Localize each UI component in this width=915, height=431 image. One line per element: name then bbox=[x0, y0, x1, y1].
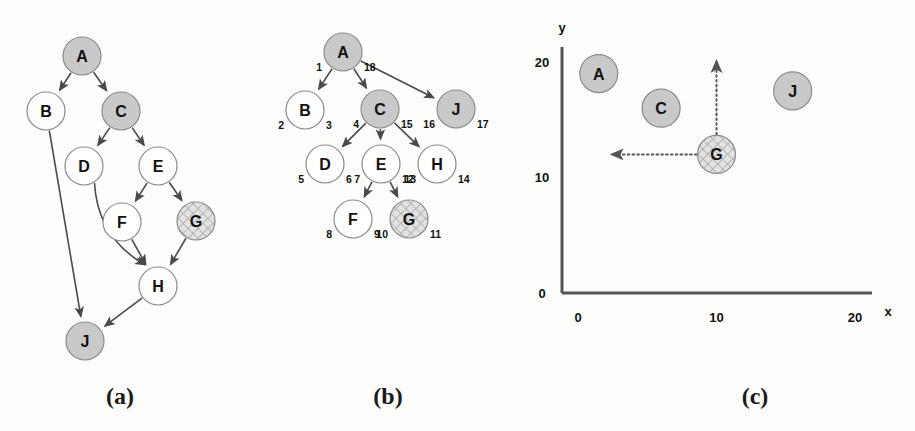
node-discovery-time: 16 bbox=[423, 118, 435, 130]
node-label: H bbox=[152, 278, 164, 295]
node-finish-time: 14 bbox=[458, 173, 470, 185]
y-axis-title: y bbox=[558, 20, 566, 35]
y-tick-label: 0 bbox=[538, 286, 545, 301]
node-label: E bbox=[376, 156, 387, 173]
node-discovery-time: 10 bbox=[376, 228, 388, 240]
node-label: A bbox=[76, 48, 88, 65]
node-finish-time: 11 bbox=[430, 228, 441, 240]
panel-a: ABCDEFGHJ bbox=[27, 37, 215, 360]
panel-b-nodes: A118B23C415J1617D56E712H1314F89G1011 bbox=[278, 33, 489, 240]
node-discovery-time: 8 bbox=[326, 228, 332, 240]
node-label: C bbox=[115, 103, 127, 120]
node-discovery-time: 2 bbox=[278, 119, 284, 131]
node-label: D bbox=[78, 158, 90, 175]
node-label: F bbox=[348, 211, 358, 228]
graph-node-j[interactable]: J bbox=[66, 322, 104, 360]
graph-node-j[interactable]: J1617 bbox=[423, 90, 489, 130]
panel-b: A118B23C415J1617D56E712H1314F89G1011 bbox=[278, 33, 489, 240]
point-label: J bbox=[788, 83, 797, 100]
node-label: F bbox=[117, 214, 127, 231]
node-finish-time: 3 bbox=[326, 119, 332, 131]
scatter-point-j[interactable]: J bbox=[774, 72, 812, 110]
graph-node-b[interactable]: B23 bbox=[278, 91, 332, 131]
node-label: B bbox=[40, 103, 52, 120]
scatter-point-c[interactable]: C bbox=[642, 89, 680, 127]
graph-edge bbox=[60, 73, 71, 90]
graph-edge bbox=[94, 72, 107, 90]
node-discovery-time: 4 bbox=[353, 118, 359, 130]
graph-node-a[interactable]: A118 bbox=[316, 33, 376, 73]
graph-node-a[interactable]: A bbox=[63, 37, 101, 75]
scatter-point-g[interactable]: G bbox=[698, 135, 736, 173]
node-label: J bbox=[81, 333, 90, 350]
node-label: C bbox=[374, 101, 386, 118]
point-label: C bbox=[655, 100, 667, 117]
x-tick-label: 20 bbox=[848, 310, 862, 325]
graph-node-e[interactable]: E bbox=[139, 147, 177, 185]
node-label: G bbox=[190, 213, 202, 230]
figure-root: ABCDEFGHJ A118B23C415J1617D56E712H1314F8… bbox=[0, 0, 915, 431]
graph-edge bbox=[169, 182, 181, 200]
node-finish-time: 15 bbox=[401, 118, 413, 130]
graph-edge bbox=[364, 182, 372, 197]
graph-node-g[interactable]: G bbox=[177, 202, 215, 240]
y-tick-label: 10 bbox=[535, 170, 549, 185]
node-label: J bbox=[452, 101, 461, 118]
graph-node-d[interactable]: D bbox=[65, 147, 103, 185]
graph-edge bbox=[136, 183, 148, 201]
node-label: D bbox=[319, 156, 331, 173]
node-discovery-time: 7 bbox=[354, 173, 360, 185]
panel-c-scatter-plot: yx0102001020 ACGJ bbox=[535, 20, 893, 325]
point-label: A bbox=[593, 66, 605, 83]
graph-edge bbox=[105, 298, 142, 326]
graph-node-c[interactable]: C bbox=[102, 92, 140, 130]
node-finish-time: 17 bbox=[477, 118, 489, 130]
graph-edge bbox=[171, 238, 186, 264]
x-axis-title: x bbox=[884, 304, 892, 319]
graph-node-b[interactable]: B bbox=[27, 92, 65, 130]
node-label: E bbox=[153, 158, 164, 175]
node-label: G bbox=[403, 211, 415, 228]
panel-c-points: ACGJ bbox=[580, 55, 812, 174]
graph-node-f[interactable]: F89 bbox=[326, 200, 380, 240]
node-discovery-time: 13 bbox=[404, 173, 416, 185]
graph-edge bbox=[132, 128, 144, 146]
x-tick-label: 0 bbox=[574, 310, 581, 325]
panel-caption-c: (c) bbox=[742, 383, 769, 410]
graph-node-f[interactable]: F bbox=[103, 203, 141, 241]
point-label: G bbox=[710, 146, 722, 163]
graph-node-g[interactable]: G1011 bbox=[376, 200, 441, 240]
node-label: A bbox=[337, 44, 349, 61]
scatter-point-a[interactable]: A bbox=[580, 55, 618, 93]
node-discovery-time: 5 bbox=[298, 173, 304, 185]
graph-node-c[interactable]: C415 bbox=[353, 90, 413, 130]
graph-node-h[interactable]: H bbox=[139, 267, 177, 305]
x-tick-label: 10 bbox=[709, 310, 723, 325]
panel-caption-a: (a) bbox=[106, 383, 134, 410]
graph-node-d[interactable]: D56 bbox=[298, 145, 352, 185]
panel-a-nodes: ABCDEFGHJ bbox=[27, 37, 215, 360]
panel-caption-b: (b) bbox=[373, 383, 402, 410]
node-discovery-time: 1 bbox=[316, 61, 322, 73]
node-label: B bbox=[299, 102, 311, 119]
node-finish-time: 18 bbox=[364, 61, 376, 73]
node-label: H bbox=[431, 156, 443, 173]
node-finish-time: 6 bbox=[346, 173, 352, 185]
graph-edge bbox=[390, 182, 398, 197]
graph-node-h[interactable]: H1314 bbox=[404, 145, 470, 185]
graph-edge bbox=[98, 128, 110, 146]
figure-canvas: ABCDEFGHJ A118B23C415J1617D56E712H1314F8… bbox=[0, 0, 915, 431]
y-tick-label: 20 bbox=[535, 55, 549, 70]
